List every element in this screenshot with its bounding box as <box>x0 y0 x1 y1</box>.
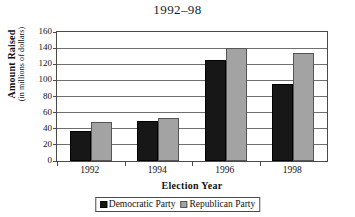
plot-area <box>56 31 328 162</box>
y-axis-tick-label: 100 <box>24 75 52 84</box>
y-axis-tick-mark <box>53 144 57 145</box>
y-axis-tick-mark <box>53 80 57 81</box>
x-axis-tick-label-1992: 1992 <box>56 165 124 175</box>
y-axis-tick-label: 20 <box>24 140 52 149</box>
x-axis-tick-labels: 1992199419961998 <box>56 165 328 179</box>
y-axis-tick-mark <box>53 64 57 65</box>
y-axis-tick-labels: 020406080100120140160 <box>24 25 52 163</box>
y-axis-title-main: Amount Raised <box>7 0 18 134</box>
bar-1996-democratic <box>205 60 226 161</box>
bar-1996-republican <box>226 48 247 161</box>
bar-1998-democratic <box>272 84 293 161</box>
y-axis-tick-label: 60 <box>24 108 52 117</box>
y-axis-tick-label: 140 <box>24 43 52 52</box>
gridline <box>57 80 327 81</box>
bar-chart-figure: 1992–98 Amount Raised (in millions of do… <box>0 0 355 217</box>
y-axis-tick-label: 120 <box>24 59 52 68</box>
bar-1992-democratic <box>70 131 91 161</box>
gridline <box>57 48 327 49</box>
gridline <box>57 64 327 65</box>
bar-1992-republican <box>91 122 112 162</box>
legend-entry-democratic-party: Democratic Party <box>100 199 176 209</box>
y-axis-tick-label: 80 <box>24 92 52 101</box>
y-axis-tick-mark <box>53 128 57 129</box>
bar-1994-republican <box>158 118 179 161</box>
chart-title: 1992–98 <box>0 2 355 18</box>
y-axis-tick-mark <box>53 48 57 49</box>
black-square-swatch <box>100 201 107 208</box>
x-axis-title: Election Year <box>56 180 328 191</box>
y-axis-tick-label: 40 <box>24 124 52 133</box>
bar-1994-democratic <box>137 121 158 161</box>
y-axis-tick-mark <box>53 32 57 33</box>
chart-legend: Democratic PartyRepublican Party <box>95 197 260 212</box>
x-axis-tick-label-1994: 1994 <box>124 165 192 175</box>
y-axis-tick-label: 160 <box>24 27 52 36</box>
legend-label: Democratic Party <box>109 199 176 209</box>
legend-entry-republican-party: Republican Party <box>181 199 256 209</box>
legend-label: Republican Party <box>190 199 256 209</box>
y-axis-tick-mark <box>53 112 57 113</box>
y-axis-tick-mark <box>53 96 57 97</box>
x-axis-tick-label-1998: 1998 <box>259 165 327 175</box>
y-axis-tick-label: 0 <box>24 156 52 165</box>
gray-square-swatch <box>181 201 188 208</box>
x-axis-tick-label-1996: 1996 <box>191 165 259 175</box>
bar-1998-republican <box>293 53 314 161</box>
